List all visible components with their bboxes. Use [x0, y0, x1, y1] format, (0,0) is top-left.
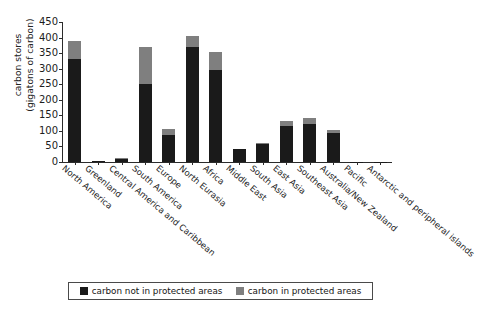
bar-group[interactable]: [275, 22, 299, 162]
bar-segment-not-protected[interactable]: [162, 135, 175, 162]
y-axis-tick-label: 450: [24, 17, 62, 27]
y-axis-tick-mark: [59, 38, 62, 39]
y-axis-tick-mark: [59, 162, 62, 163]
bar-stack[interactable]: [280, 121, 293, 162]
bar-group[interactable]: [228, 22, 252, 162]
bar-group[interactable]: [181, 22, 205, 162]
bar-group[interactable]: [345, 22, 369, 162]
bar-stack[interactable]: [139, 47, 152, 162]
bar-stack[interactable]: [162, 129, 175, 162]
x-axis-line: [62, 162, 392, 163]
y-axis-tick-mark: [59, 131, 62, 132]
y-axis-tick-label: 50: [24, 141, 62, 151]
bar-segment-not-protected[interactable]: [139, 84, 152, 162]
legend-item[interactable]: carbon not in protected areas: [80, 286, 223, 296]
bar-segment-not-protected[interactable]: [68, 59, 81, 162]
y-axis-tick-label: 200: [24, 95, 62, 105]
bar-segment-not-protected[interactable]: [186, 47, 199, 162]
bar-group[interactable]: [157, 22, 181, 162]
y-axis-tick-label: 100: [24, 126, 62, 136]
bar-stack[interactable]: [256, 143, 269, 162]
bar-segment-not-protected[interactable]: [280, 126, 293, 162]
bar-segment-not-protected[interactable]: [256, 144, 269, 162]
bar-group[interactable]: [251, 22, 275, 162]
bar-group[interactable]: [369, 22, 393, 162]
legend-swatch-icon: [80, 287, 88, 295]
bar-stack[interactable]: [233, 149, 246, 162]
chart-legend: carbon not in protected areascarbon in p…: [68, 282, 373, 300]
bar-stack[interactable]: [303, 118, 316, 162]
y-axis-tick-label: 0: [24, 157, 62, 167]
bar-group[interactable]: [134, 22, 158, 162]
y-axis-tick-mark: [59, 53, 62, 54]
bar-group[interactable]: [110, 22, 134, 162]
bar-stack[interactable]: [209, 52, 222, 162]
y-axis-tick-mark: [59, 22, 62, 23]
bar-stack[interactable]: [327, 130, 340, 162]
y-axis-tick-mark: [59, 115, 62, 116]
bar-group[interactable]: [298, 22, 322, 162]
bar-segment-not-protected[interactable]: [303, 124, 316, 162]
bar-group[interactable]: [322, 22, 346, 162]
bar-segment-protected[interactable]: [186, 36, 199, 47]
bar-group[interactable]: [87, 22, 111, 162]
bar-segment-not-protected[interactable]: [209, 70, 222, 162]
bar-series-group: [63, 22, 392, 162]
bar-segment-protected[interactable]: [68, 41, 81, 60]
legend-label: carbon in protected areas: [248, 286, 362, 296]
bar-segment-protected[interactable]: [209, 52, 222, 71]
y-axis-tick-label: 400: [24, 33, 62, 43]
y-axis-tick-label: 300: [24, 64, 62, 74]
bar-segment-protected[interactable]: [139, 47, 152, 84]
legend-item[interactable]: carbon in protected areas: [236, 286, 362, 296]
legend-swatch-icon: [236, 287, 244, 295]
bar-segment-not-protected[interactable]: [233, 149, 246, 162]
bar-group[interactable]: [204, 22, 228, 162]
y-axis-tick-label: 350: [24, 48, 62, 58]
y-axis-tick-mark: [59, 100, 62, 101]
plot-area: 050100150200250300350400450: [62, 22, 392, 162]
y-axis-tick-mark: [59, 69, 62, 70]
y-axis-tick-mark: [59, 146, 62, 147]
bar-stack[interactable]: [186, 36, 199, 162]
y-axis-tick-label: 250: [24, 79, 62, 89]
legend-label: carbon not in protected areas: [92, 286, 223, 296]
x-axis-labels: North AmericaGreenlandCentral America an…: [63, 164, 392, 274]
bar-stack[interactable]: [68, 41, 81, 162]
bar-segment-not-protected[interactable]: [327, 133, 340, 162]
bar-group[interactable]: [63, 22, 87, 162]
y-axis-tick-mark: [59, 84, 62, 85]
y-axis-tick-label: 150: [24, 110, 62, 120]
